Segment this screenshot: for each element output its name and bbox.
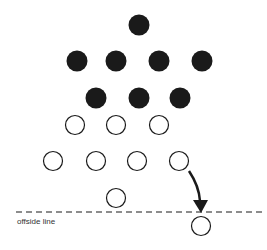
open-player-icon [107, 189, 126, 208]
filled-player-icon [192, 51, 213, 72]
open-player-icon [150, 116, 169, 135]
filled-player-icon [170, 88, 191, 109]
movement-arrow-icon [189, 171, 200, 201]
open-player-icon [192, 217, 211, 236]
open-player-icon [87, 152, 106, 171]
filled-players [67, 15, 213, 109]
arrowhead-icon [193, 200, 208, 213]
filled-player-icon [86, 88, 107, 109]
open-player-icon [170, 152, 189, 171]
open-player-icon [66, 116, 85, 135]
offside-line-label: offside line [17, 217, 55, 226]
filled-player-icon [129, 15, 150, 36]
open-player-icon [128, 152, 147, 171]
open-player-icon [107, 116, 126, 135]
open-players [44, 116, 211, 236]
open-player-icon [44, 152, 63, 171]
filled-player-icon [106, 51, 127, 72]
filled-player-icon [67, 51, 88, 72]
offside-diagram [0, 0, 267, 250]
filled-player-icon [129, 88, 150, 109]
filled-player-icon [149, 51, 170, 72]
